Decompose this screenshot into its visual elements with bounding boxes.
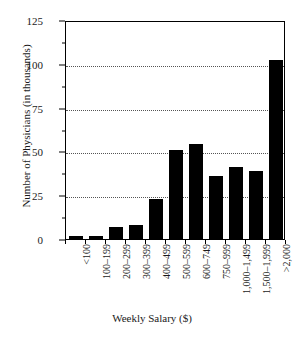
x-tick-label-wrap: 750–999 [208,244,222,302]
bar [69,236,82,239]
bar [89,236,102,239]
x-tick-label: >2,000 [280,244,293,272]
y-tick-label: 50 [32,146,43,158]
y-tick-label: 100 [27,59,44,71]
bar [169,150,182,239]
x-tick-label-wrap: 300–399 [128,244,142,302]
x-tick-label-wrap: >2,000 [268,244,282,302]
x-axis-title: Weekly Salary ($) [0,312,304,324]
y-tick-label: 125 [27,15,44,27]
bar [149,199,162,239]
bar [229,167,242,239]
x-axis-tick-labels: <100100–199200–299300–399400–499500–5996… [65,244,285,302]
x-tick-label-wrap: 600–749 [188,244,202,302]
bar [189,144,202,239]
bar-series [66,22,284,239]
bar [269,60,282,239]
x-tick-label-wrap: 1,000–1,499 [228,244,242,302]
x-tick-label-wrap: 200–299 [108,244,122,302]
bar [129,225,142,239]
y-tick-label: 0 [38,234,44,246]
x-tick-label-wrap: 1,500–1,999 [248,244,262,302]
bar-chart: Number of Physicians (in thousands) 0255… [0,0,304,338]
x-tick-label-wrap: 500–599 [168,244,182,302]
bar [249,171,262,239]
y-tick-label: 25 [32,190,43,202]
y-tick-label: 75 [32,103,43,115]
x-tick-label-wrap: 100–199 [88,244,102,302]
x-tick-label-wrap: <100 [68,244,82,302]
bar [209,176,222,239]
bar [109,227,122,239]
plot-area [65,21,285,240]
y-axis-ticks: 0255075100125 [0,21,65,240]
x-tick-label-wrap: 400–499 [148,244,162,302]
